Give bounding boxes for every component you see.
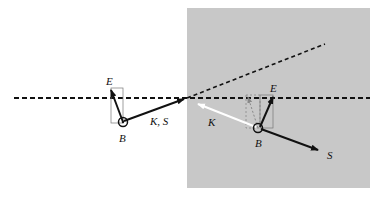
medium-b-label: B (255, 138, 262, 149)
incident-b-label: B (119, 133, 126, 144)
diagram-canvas (0, 0, 382, 197)
medium-e-label: E (270, 83, 277, 94)
medium-s-label: S (327, 150, 333, 161)
incident-b-dot (122, 121, 124, 123)
incident-ks-label: K, S (150, 116, 168, 127)
medium-k-label: K (208, 117, 215, 128)
incident-e-label: E (106, 76, 113, 87)
